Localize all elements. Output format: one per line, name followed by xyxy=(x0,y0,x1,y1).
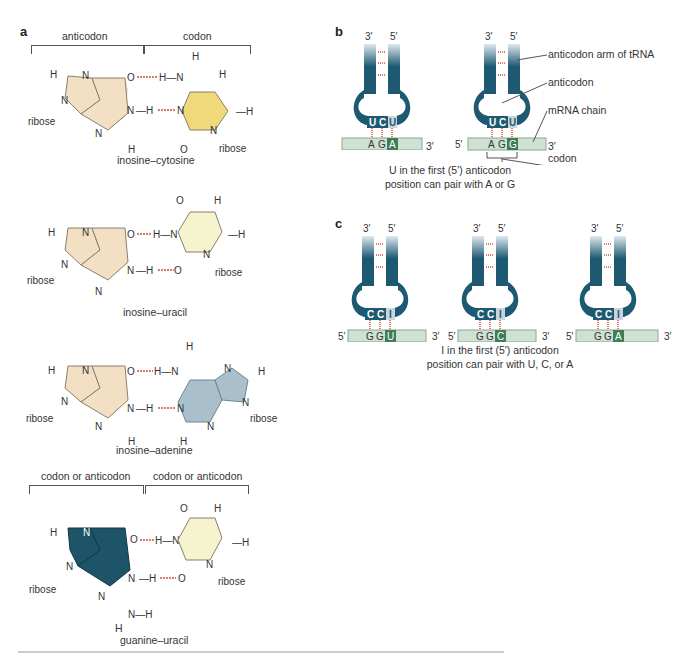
svg-text:3′: 3′ xyxy=(485,31,493,42)
callout-anticodon: anticodon xyxy=(548,76,594,88)
svg-text:3′: 3′ xyxy=(664,331,672,342)
svg-text:G: G xyxy=(476,331,484,342)
svg-text:—H: —H xyxy=(136,403,153,414)
svg-text:N: N xyxy=(82,70,89,81)
svg-text:3′: 3′ xyxy=(365,31,373,42)
svg-text:H: H xyxy=(219,69,226,80)
svg-text:H—N: H—N xyxy=(155,535,179,546)
svg-text:N: N xyxy=(206,559,213,570)
svg-text:—H: —H xyxy=(136,265,153,276)
svg-text:H: H xyxy=(258,366,265,377)
svg-text:ribose: ribose xyxy=(28,116,56,127)
svg-text:U: U xyxy=(389,117,396,128)
svg-text:5′: 5′ xyxy=(498,223,506,234)
svg-text:—H: —H xyxy=(228,229,245,240)
svg-text:—H: —H xyxy=(236,106,253,117)
pair-label-inosine-cytosine: inosine–cytosine xyxy=(117,154,195,166)
svg-text:A: A xyxy=(368,139,375,150)
svg-text:O: O xyxy=(130,534,138,545)
panel-c-caption-line1: I in the first (5′) anticodon xyxy=(420,343,580,357)
svg-text:ribose: ribose xyxy=(27,275,55,286)
svg-text:N: N xyxy=(82,227,89,238)
svg-text:O: O xyxy=(178,573,186,584)
panel-b-caption-line1: U in the first (5′) anticodon xyxy=(360,163,540,177)
codon-or-anticodon-label-right: codon or anticodon xyxy=(153,470,242,482)
svg-text:O: O xyxy=(176,195,184,206)
svg-text:N: N xyxy=(210,125,217,136)
svg-text:G: G xyxy=(378,139,386,150)
svg-text:G: G xyxy=(486,331,494,342)
svg-text:O: O xyxy=(180,503,188,514)
svg-text:ribose: ribose xyxy=(219,143,247,154)
mrna-3prime-b1: 3′ xyxy=(426,140,434,152)
svg-text:ribose: ribose xyxy=(218,576,246,587)
svg-text:N: N xyxy=(61,95,68,106)
guanine-uracil-structure: H N N ribose N N O H—N —H N—H O H —H N O… xyxy=(0,490,300,625)
svg-text:N: N xyxy=(242,397,249,408)
svg-text:N: N xyxy=(127,265,134,276)
svg-text:C: C xyxy=(367,309,374,320)
inosine-adenine-structure: H N N ribose N N O H H—N —H H N H N ribo… xyxy=(0,330,300,445)
svg-text:3′: 3′ xyxy=(432,331,440,342)
pair-label-inosine-adenine: inosine–adenine xyxy=(116,444,192,456)
svg-text:5′: 5′ xyxy=(455,139,463,150)
codon-bracket-label: codon xyxy=(183,30,212,42)
pair-label-guanine-uracil: guanine–uracil xyxy=(120,634,188,646)
svg-text:C: C xyxy=(477,309,484,320)
callout-anticodon-arm: anticodon arm of tRNA xyxy=(548,48,654,60)
svg-text:5′: 5′ xyxy=(616,223,624,234)
svg-text:H: H xyxy=(214,503,221,514)
svg-text:5′: 5′ xyxy=(338,331,346,342)
svg-text:H: H xyxy=(48,227,55,238)
panel-b-caption: U in the first (5′) anticodon position c… xyxy=(360,163,540,191)
svg-text:I: I xyxy=(389,309,392,320)
svg-text:C: C xyxy=(499,117,506,128)
svg-text:N: N xyxy=(177,403,184,414)
pair-label-inosine-uracil: inosine–uracil xyxy=(123,306,187,318)
svg-text:U: U xyxy=(369,117,376,128)
svg-text:3′: 3′ xyxy=(591,223,599,234)
svg-text:5′: 5′ xyxy=(510,31,518,42)
codon-or-anticodon-label-left: codon or anticodon xyxy=(41,470,130,482)
svg-text:3′: 3′ xyxy=(473,223,481,234)
svg-text:C: C xyxy=(605,309,612,320)
svg-text:G: G xyxy=(594,331,602,342)
svg-text:5′: 5′ xyxy=(390,31,398,42)
trna-c2: 3′ 5′ C C I 5′ G G C 3′ xyxy=(448,222,558,342)
svg-text:3′: 3′ xyxy=(363,223,371,234)
svg-text:U: U xyxy=(387,331,394,342)
svg-text:G: G xyxy=(604,331,612,342)
svg-text:O: O xyxy=(127,72,135,83)
panel-c-caption: I in the first (5′) anticodon position c… xyxy=(420,343,580,371)
svg-text:ribose: ribose xyxy=(26,413,54,424)
svg-text:I: I xyxy=(499,309,502,320)
inosine-uracil-structure: H N N ribose N N O H—N —H O H —H N O rib… xyxy=(0,180,300,295)
divider-rule xyxy=(18,651,504,653)
svg-text:N: N xyxy=(95,286,102,295)
svg-text:U: U xyxy=(489,117,496,128)
svg-text:H—N: H—N xyxy=(159,72,183,83)
trna-c1: 3′ 5′ C C I 5′ G G U 3′ xyxy=(338,222,448,342)
svg-text:N: N xyxy=(95,421,102,432)
callout-codon: codon xyxy=(548,152,577,164)
svg-text:H: H xyxy=(50,69,57,80)
svg-text:3′: 3′ xyxy=(542,331,550,342)
svg-text:C: C xyxy=(497,331,504,342)
svg-text:N—H: N—H xyxy=(128,609,152,620)
svg-text:C: C xyxy=(377,309,384,320)
svg-text:H: H xyxy=(186,341,193,352)
svg-text:C: C xyxy=(595,309,602,320)
svg-text:5′: 5′ xyxy=(388,223,396,234)
svg-text:ribose: ribose xyxy=(250,413,278,424)
svg-text:H: H xyxy=(214,195,221,206)
svg-text:—H: —H xyxy=(139,573,156,584)
svg-text:N: N xyxy=(82,365,89,376)
panel-a-letter: a xyxy=(20,24,27,39)
svg-text:G: G xyxy=(376,331,384,342)
svg-text:G: G xyxy=(498,139,506,150)
svg-text:N: N xyxy=(98,591,105,602)
svg-text:A: A xyxy=(389,139,396,150)
svg-text:N: N xyxy=(127,105,134,116)
svg-text:N: N xyxy=(83,527,90,538)
svg-text:N: N xyxy=(224,363,231,374)
